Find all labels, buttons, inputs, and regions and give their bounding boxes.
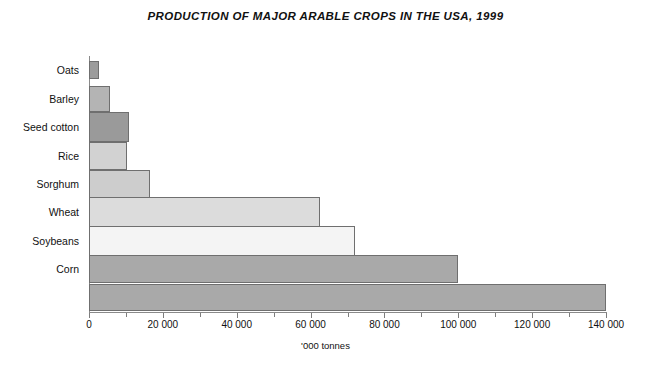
x-tick-minor [421,313,422,317]
x-tick-label: 40 000 [221,319,252,330]
x-tick-label: 60 000 [295,319,326,330]
chart-figure: PRODUCTION OF MAJOR ARABLE CROPS IN THE … [0,0,651,389]
bar-row [89,226,606,256]
x-tick-major [311,313,312,318]
y-label-sorghum: Sorghum [36,178,79,190]
x-tick-minor [348,313,349,317]
bar-row [89,112,606,142]
x-tick-label: 80 000 [369,319,400,330]
bar-rice [89,142,127,170]
x-tick-label: 0 [86,319,92,330]
bar-barley [89,86,110,112]
y-label-wheat: Wheat [49,206,79,218]
bar-row [89,61,606,79]
y-label-oats: Oats [57,64,79,76]
bar-oats [89,61,99,79]
x-axis-title: '000 tonnes [0,340,651,351]
bar-wheat [89,197,320,227]
x-tick-major [606,313,607,318]
bar-row [89,284,606,311]
x-tick-major [532,313,533,318]
x-tick-minor [495,313,496,317]
x-tick-major [89,313,90,318]
y-label-barley: Barley [49,93,79,105]
bar-sorghum [89,170,150,198]
y-label-corn: Corn [56,263,79,275]
x-tick-minor [274,313,275,317]
x-tick-minor [200,313,201,317]
x-tick-major [458,313,459,318]
x-tick-label: 140 000 [588,319,624,330]
y-axis-category-labels: OatsBarleySeed cottonRiceSorghumWheatSoy… [0,56,85,312]
y-label-rice: Rice [58,150,79,162]
bar-corn-upper [89,284,606,311]
bar-row [89,86,606,112]
bar-row [89,255,606,283]
x-tick-major [384,313,385,318]
bar-seed-cotton [89,112,129,142]
x-tick-minor [126,313,127,317]
x-tick-label: 100 000 [440,319,476,330]
x-tick-label: 120 000 [514,319,550,330]
x-tick-major [163,313,164,318]
bar-soybeans [89,226,355,256]
bar-row [89,142,606,170]
y-label-soybeans: Soybeans [32,235,79,247]
x-tick-major [237,313,238,318]
x-tick-minor [569,313,570,317]
bar-row [89,170,606,198]
bar-corn [89,255,458,283]
y-label-seed-cotton: Seed cotton [23,121,79,133]
plot-area [89,56,606,312]
bar-row [89,197,606,227]
chart-title: PRODUCTION OF MAJOR ARABLE CROPS IN THE … [0,10,651,22]
x-tick-label: 20 000 [148,319,179,330]
